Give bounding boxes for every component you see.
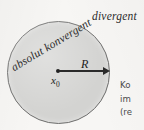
divergent-region-label: divergent bbox=[92, 10, 137, 22]
caption-line: im bbox=[120, 93, 144, 107]
caption-line: Ko bbox=[120, 79, 144, 93]
side-caption-text: Ko im (re bbox=[120, 79, 144, 120]
center-point-label: x0 bbox=[51, 74, 60, 89]
center-point-subscript: 0 bbox=[56, 80, 60, 89]
caption-line: (re bbox=[120, 106, 144, 120]
radius-label: R bbox=[81, 57, 88, 72]
convergence-radius-figure: divergent absolut konvergent x0 R Ko im … bbox=[0, 0, 144, 130]
radius-arrowhead-icon bbox=[103, 67, 110, 75]
